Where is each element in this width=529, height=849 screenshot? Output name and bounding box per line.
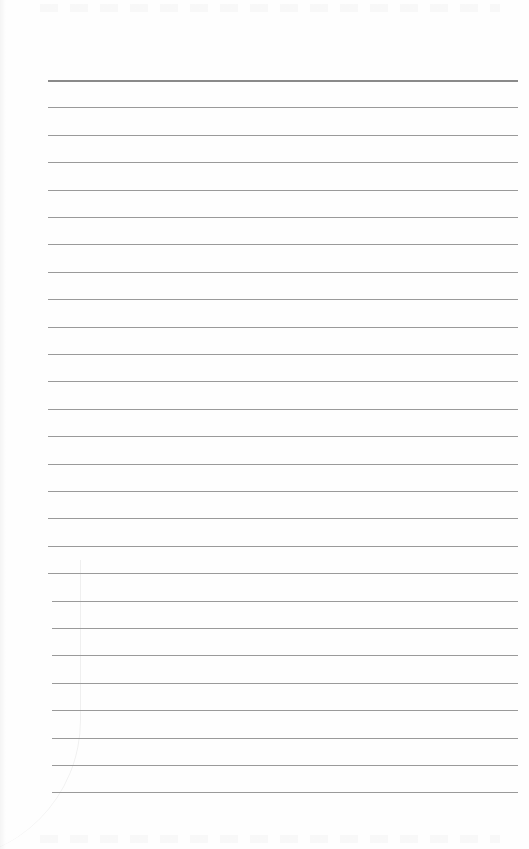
ruled-line: [48, 272, 518, 273]
ruled-line: [52, 628, 518, 629]
ruled-line: [52, 710, 518, 711]
ruled-line: [52, 601, 518, 602]
ruled-line: [48, 107, 518, 108]
ruled-line: [48, 135, 518, 136]
ruled-line: [48, 573, 518, 574]
ruled-line: [48, 546, 518, 547]
ruled-line: [48, 436, 518, 437]
show-through-bottom: [40, 835, 500, 843]
ruled-line: [48, 354, 518, 355]
header-ruled-line: [48, 80, 518, 82]
ruled-line: [48, 299, 518, 300]
ruled-line: [48, 217, 518, 218]
ruled-line: [48, 464, 518, 465]
ruled-line: [52, 683, 518, 684]
ruled-line: [52, 655, 518, 656]
notebook-page: [0, 0, 529, 849]
ruled-line: [48, 409, 518, 410]
ruled-line: [48, 190, 518, 191]
ruled-line: [48, 381, 518, 382]
ruled-line: [52, 765, 518, 766]
ruled-line: [48, 491, 518, 492]
page-curl-edge: [0, 560, 81, 849]
ruled-line: [48, 518, 518, 519]
ruled-line: [48, 162, 518, 163]
page-edge-shadow: [0, 0, 6, 849]
ruled-line: [52, 738, 518, 739]
ruled-line: [48, 327, 518, 328]
ruled-line: [52, 792, 518, 793]
show-through-top: [40, 4, 500, 12]
ruled-line: [48, 244, 518, 245]
